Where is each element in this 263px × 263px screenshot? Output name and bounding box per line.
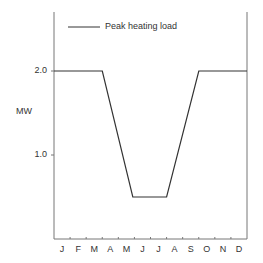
month-label: J xyxy=(55,244,69,254)
month-label: O xyxy=(200,244,214,254)
month-label: N xyxy=(216,244,230,254)
y-tick-label-1: 1.0 xyxy=(17,149,47,159)
month-label: D xyxy=(232,244,246,254)
y-tick-label-2: 2.0 xyxy=(17,65,47,75)
month-label: S xyxy=(184,244,198,254)
month-label: M xyxy=(119,244,133,254)
month-label: F xyxy=(71,244,85,254)
month-label: A xyxy=(103,244,117,254)
legend-label: Peak heating load xyxy=(105,21,177,31)
month-label: J xyxy=(152,244,166,254)
y-axis-label: MW xyxy=(16,106,32,116)
month-label: A xyxy=(168,244,182,254)
chart-svg xyxy=(0,0,263,263)
peak-heating-load-line xyxy=(54,71,247,197)
month-label: J xyxy=(135,244,149,254)
month-label: M xyxy=(87,244,101,254)
